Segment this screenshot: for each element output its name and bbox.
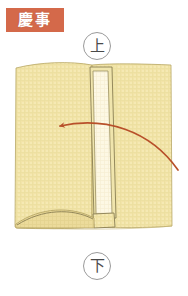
paper-left-panel	[15, 63, 92, 229]
diagram-page: 慶事 上	[0, 0, 188, 296]
vertical-fold-strip	[90, 67, 116, 219]
folded-paper-illustration	[0, 56, 188, 240]
orientation-bottom-label: 下	[90, 259, 105, 274]
orientation-top-label: 上	[90, 39, 105, 54]
category-badge: 慶事	[6, 8, 64, 32]
orientation-marker-bottom: 下	[83, 252, 111, 280]
category-label: 慶事	[18, 13, 52, 28]
strip-bottom-band	[93, 213, 115, 228]
